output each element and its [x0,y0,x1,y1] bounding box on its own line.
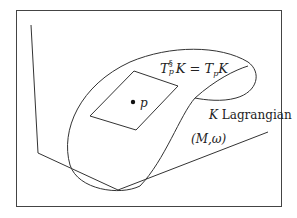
tangent-lhs-T: T [160,61,169,76]
tangent-space-label: T§pK = TpK [160,62,228,78]
tangent-lhs-sup: § [169,59,173,67]
lagrangian-K: K [209,108,218,122]
diagram-canvas: T§pK = TpK p K Lagrangian (M,ω) [0,0,297,218]
point-p-label: p [140,97,148,109]
lagrangian-desc: Lagrangian [222,108,292,122]
tangent-rhs-K: K [218,61,228,76]
tangent-lhs-scripts: §p [169,63,176,73]
point-p-dot [131,100,135,104]
lagrangian-k-fold [140,98,195,186]
manifold-label: (M,ω) [191,133,226,145]
lagrangian-label: K Lagrangian [209,109,292,121]
tangent-lhs-K: K [176,61,186,76]
tangent-rhs-T: T [205,61,214,76]
equals-sign: = [185,61,204,76]
tangent-lhs-sub: p [169,68,174,76]
